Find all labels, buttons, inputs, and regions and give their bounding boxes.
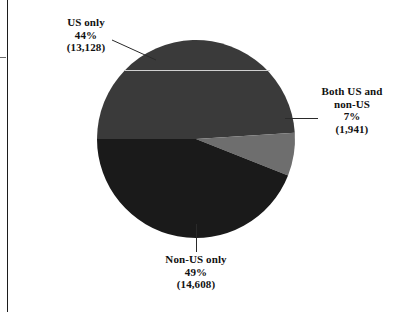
pie-label-us-only-name: US only <box>38 16 134 29</box>
page-canvas: US only 44% (13,128) Both US and non-US … <box>0 0 409 312</box>
pie-label-non-us-only-percent: 49% <box>128 266 264 279</box>
pie-label-us-only: US only 44% (13,128) <box>38 16 134 54</box>
pie-slice-non-us-only[interactable] <box>97 40 295 139</box>
pie-label-both-percent: 7% <box>300 110 404 123</box>
pie-chart: US only 44% (13,128) Both US and non-US … <box>0 0 409 312</box>
pie-label-us-only-count: (13,128) <box>38 41 134 54</box>
pie-label-both-name-line1: Both US and <box>300 85 404 98</box>
slice-separator-hairline <box>125 70 270 71</box>
pie-label-both-us-and-non-us: Both US and non-US 7% (1,941) <box>300 85 404 135</box>
pie-label-us-only-percent: 44% <box>38 29 134 42</box>
pie-label-both-name-line2: non-US <box>300 98 404 111</box>
pie-label-non-us-only-count: (14,608) <box>128 278 264 291</box>
pie-label-non-us-only: Non-US only 49% (14,608) <box>128 253 264 291</box>
pie-label-non-us-only-name: Non-US only <box>128 253 264 266</box>
leader-line-non-us-only <box>196 224 197 252</box>
pie-label-both-count: (1,941) <box>300 123 404 136</box>
